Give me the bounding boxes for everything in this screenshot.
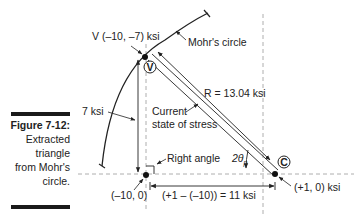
point-v-label: V (–10, –7) ksi [92,30,160,42]
point-v-pointer [131,46,142,54]
vertical-leg-label: 7 ksi [82,105,104,117]
right-angle-label: Right angle [167,152,220,164]
arc-end-tick [204,10,210,17]
radius-label: R = 13.04 ksi [204,87,266,99]
current-state-pointer [186,104,198,112]
current-state-label-2: state of stress [152,118,217,130]
angle-label: 2θp [231,152,248,167]
point-base-label: (–10, 0) [111,189,147,201]
point-c [272,171,278,177]
point-c-pointer [279,177,291,186]
point-base [143,172,149,178]
point-c-label: (+1, 0) ksi [294,181,340,193]
angle-label-subscript: p [243,159,248,167]
horizontal-leg-label: (+1 – (–10)) = 11 ksi [162,189,256,201]
v-marker-letter: V [146,61,153,73]
current-state-label-1: Current [152,105,187,117]
c-marker-letter: C [280,156,288,168]
angle-label-main: 2θ [231,152,244,164]
mohrs-circle-diagram: V C V (–10, –7) ksi Mohr's circle R = 13… [0,0,354,220]
point-v [142,54,148,60]
mohrs-circle-pointer [176,31,186,40]
right-angle-pointer [157,159,166,164]
mohrs-circle-label: Mohr's circle [188,36,247,48]
